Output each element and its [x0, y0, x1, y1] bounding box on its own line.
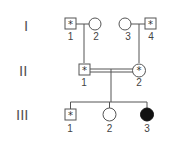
- individual-number: 1: [67, 123, 73, 134]
- generation-label-II: II: [19, 62, 27, 79]
- generation-label-I: I: [24, 17, 28, 34]
- individual-number: 1: [68, 31, 74, 42]
- female-circle-icon: [89, 18, 101, 30]
- generation-label-III: III: [16, 106, 29, 123]
- individual-III-3: 3: [141, 108, 154, 134]
- individual-number: 4: [148, 31, 154, 42]
- individual-I-1: * 1: [65, 18, 76, 42]
- individual-III-2: 2: [103, 108, 116, 134]
- individual-number: 3: [144, 123, 150, 134]
- individual-number: 2: [107, 123, 113, 134]
- female-circle-icon: [103, 108, 116, 121]
- individual-number: 1: [81, 77, 87, 88]
- carrier-marker: *: [82, 65, 87, 76]
- individual-III-1: * 1: [65, 109, 76, 134]
- individual-II-2: * 2: [133, 64, 146, 88]
- individual-II-1: * 1: [79, 64, 90, 88]
- female-circle-icon: [119, 18, 131, 30]
- carrier-marker: *: [137, 65, 142, 76]
- pedigree-diagram: I II III * 1 2 3 * 4 * 1 * 2: [0, 0, 174, 152]
- individual-number: 3: [125, 31, 131, 42]
- affected-female-circle-icon: [141, 108, 154, 121]
- individual-I-4: * 4: [145, 18, 156, 42]
- carrier-marker: *: [68, 19, 73, 30]
- carrier-marker: *: [68, 110, 73, 121]
- individual-number: 2: [136, 77, 142, 88]
- individual-number: 2: [93, 31, 99, 42]
- carrier-marker: *: [148, 19, 153, 30]
- individual-I-2: 2: [89, 18, 101, 42]
- individual-I-3: 3: [119, 18, 131, 42]
